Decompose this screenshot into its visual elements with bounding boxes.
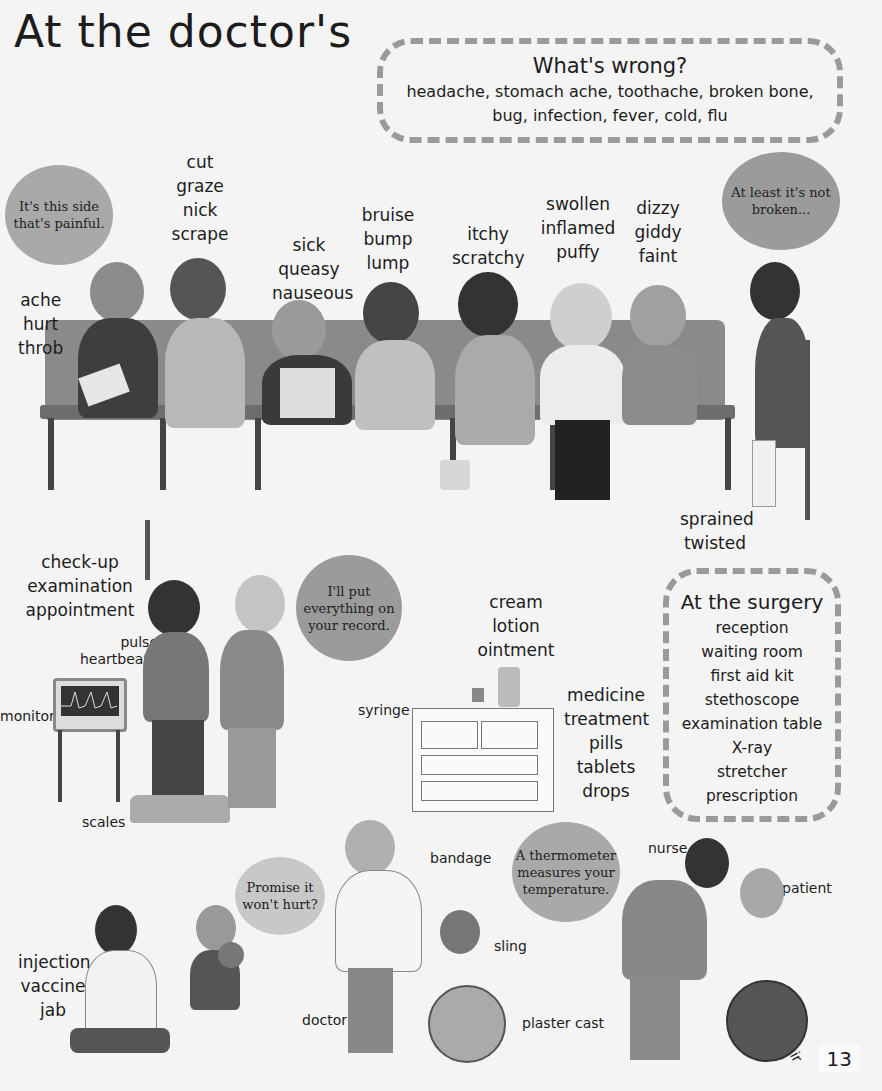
itchy-words: itchy scratchy [452, 222, 524, 270]
doctor-coat [335, 870, 422, 972]
whats-wrong-title: What's wrong? [383, 52, 837, 80]
word: bruise [356, 203, 420, 227]
sprained-words: sprained twisted [680, 507, 750, 555]
male-nurse-body [622, 880, 707, 980]
bandage-label: bandage [430, 850, 491, 867]
kneeling-legs [70, 1028, 170, 1053]
word: medicine [564, 683, 648, 707]
word: cream [476, 590, 556, 614]
doctor-trousers [348, 968, 393, 1053]
wheelchair-wheel-icon [726, 980, 808, 1062]
girl-crutch-head [750, 262, 800, 320]
word: queasy [272, 257, 346, 281]
wheelchair-boy-head [440, 910, 480, 954]
word: vaccine [18, 974, 88, 998]
word: scrape [160, 222, 240, 246]
dizzy-person-head [630, 285, 686, 347]
scales-icon [130, 795, 230, 823]
surgery-item: first aid kit [669, 664, 835, 688]
nurse-label: nurse [648, 840, 687, 857]
boy-head [90, 262, 144, 322]
crutch-icon [805, 340, 810, 520]
heartbeat-line-icon [61, 686, 117, 716]
word: throb [18, 336, 63, 360]
swollen-words: swollen inflamed puffy [540, 192, 616, 264]
at-the-surgery-box: At the surgery reception waiting room fi… [663, 568, 841, 822]
word: examination [20, 574, 140, 598]
word: ointment [476, 638, 556, 662]
sling-label: sling [494, 938, 527, 955]
handbag-icon [440, 460, 470, 490]
bruised-child-head [363, 282, 419, 344]
word: nick [160, 198, 240, 222]
speech-bubble-record: I'll put everything on your record. [296, 555, 402, 661]
patient-label: patient [782, 880, 832, 897]
word: jab [18, 998, 88, 1022]
doctor-label: doctor [302, 1012, 347, 1029]
patient-head [740, 868, 784, 918]
monitor-label: monitor [0, 708, 55, 725]
word: puffy [540, 240, 616, 264]
word: lotion [476, 614, 556, 638]
surgery-item: examination table [669, 712, 835, 736]
word: tablets [564, 755, 648, 779]
whats-wrong-line-1: headache, stomach ache, toothache, broke… [383, 80, 837, 104]
girl-patient-head [148, 580, 200, 636]
surgery-item: waiting room [669, 640, 835, 664]
word: sprained [680, 507, 750, 531]
leg-cast-icon [752, 440, 776, 507]
heart-monitor [53, 678, 127, 732]
word: lump [356, 251, 420, 275]
word: sick [272, 233, 346, 257]
word: bump [356, 227, 420, 251]
girl-body [165, 318, 245, 428]
ache-words: ache hurt throb [18, 288, 63, 360]
word: itchy [452, 222, 524, 246]
word: inflamed [540, 216, 616, 240]
wheelchair-wheel-icon [428, 985, 506, 1063]
dizzy-person-body [622, 345, 697, 425]
word: cut [160, 150, 240, 174]
bench-leg [48, 418, 54, 490]
drawer [421, 755, 538, 775]
old-man-head [550, 283, 612, 351]
injection-words: injection vaccine jab [18, 950, 88, 1022]
speech-bubble-thermometer: A thermometer measures your temperature. [512, 822, 620, 922]
syringe-label: syringe [358, 702, 410, 719]
word: hurt [18, 312, 63, 336]
male-nurse-trousers [630, 975, 680, 1060]
word: giddy [630, 220, 686, 244]
whats-wrong-line-2: bug, infection, fever, cold, flu [383, 104, 837, 128]
doctor-head [345, 820, 395, 875]
girl-head [170, 258, 226, 320]
sick-child-head [272, 300, 326, 360]
medicine-words: medicine treatment pills tablets drops [564, 683, 648, 803]
itchy-woman-body [455, 335, 535, 445]
surgery-item: reception [669, 616, 835, 640]
dizzy-words: dizzy giddy faint [630, 196, 686, 268]
teddy-bear-icon [218, 942, 244, 968]
word: nauseous [272, 281, 346, 305]
speech-bubble-painful: It's this side that's painful. [5, 165, 113, 265]
lotion-bottle-icon [498, 667, 520, 707]
nurse-injection-head [95, 905, 137, 955]
nurse-body [220, 630, 284, 730]
drawer [421, 781, 538, 801]
bench-leg [725, 418, 731, 490]
drawer [421, 721, 478, 749]
surgery-title: At the surgery [669, 588, 835, 616]
cream-words: cream lotion ointment [476, 590, 556, 662]
bruise-words: bruise bump lump [356, 203, 420, 275]
word: check-up [20, 550, 140, 574]
bench-leg [255, 418, 261, 490]
word: pills [564, 731, 648, 755]
medicine-cabinet [412, 708, 554, 812]
heartbeat-label: heartbeat [80, 651, 143, 668]
scales-label: scales [82, 814, 125, 831]
surgery-item: prescription [669, 784, 835, 808]
height-measure [145, 520, 150, 580]
surgery-item: X-ray [669, 736, 835, 760]
word: graze [160, 174, 240, 198]
word: treatment [564, 707, 648, 731]
word: ache [18, 288, 63, 312]
